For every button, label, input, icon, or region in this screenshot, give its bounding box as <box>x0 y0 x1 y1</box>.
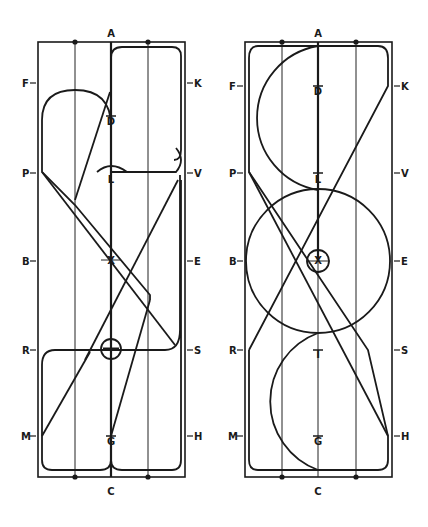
right-bottom-half-circle <box>270 333 318 470</box>
right-marker-dot <box>279 39 284 44</box>
letter-s: S <box>194 345 201 356</box>
letter-c: C <box>107 486 114 497</box>
letter-l: L <box>108 174 115 185</box>
right-marker-dot <box>279 474 284 479</box>
right-arena: A C F P B R M K V E S H D L X I G <box>228 28 410 497</box>
letter-h: H <box>401 431 409 442</box>
letter-d: D <box>314 86 322 97</box>
letter-e: E <box>401 256 408 267</box>
left-marker-dot <box>72 39 77 44</box>
letter-r: R <box>229 345 237 356</box>
letter-b: B <box>22 256 30 267</box>
left-track-path <box>85 180 178 360</box>
letter-p: P <box>229 168 236 179</box>
letter-b: B <box>229 256 237 267</box>
left-marker-dot <box>145 474 150 479</box>
letter-k: K <box>401 81 410 92</box>
letter-v: V <box>401 168 409 179</box>
left-arena: A C F P B R M K V E S H D L X G <box>21 28 203 497</box>
letter-g: G <box>314 436 322 447</box>
letter-k: K <box>194 78 203 89</box>
letter-v: V <box>194 168 202 179</box>
letter-a: A <box>107 28 115 39</box>
letter-c: C <box>314 486 321 497</box>
letter-i: I <box>316 349 320 360</box>
letter-f: F <box>22 78 29 89</box>
letter-g: G <box>107 436 115 447</box>
left-track-path <box>75 92 110 200</box>
left-marker-dot <box>145 39 150 44</box>
letter-m: M <box>21 431 31 442</box>
letter-e: E <box>194 256 201 267</box>
left-track-path <box>42 90 150 300</box>
letter-l: L <box>315 174 322 185</box>
letter-s: S <box>401 345 408 356</box>
left-track-path <box>42 352 90 436</box>
right-marker-dot <box>353 474 358 479</box>
right-top-half-circle <box>257 46 318 190</box>
letter-x: X <box>314 255 322 266</box>
letter-f: F <box>229 81 236 92</box>
letter-d: D <box>107 116 115 127</box>
right-marker-dot <box>353 39 358 44</box>
left-track-path <box>111 47 181 160</box>
letter-x: X <box>107 255 115 266</box>
letter-m: M <box>228 431 238 442</box>
dressage-diagrams: A C F P B R M K V E S H D L X G <box>0 0 428 527</box>
letter-p: P <box>22 168 29 179</box>
letter-r: R <box>22 345 30 356</box>
left-track-path <box>111 300 150 436</box>
left-marker-dot <box>72 474 77 479</box>
letter-h: H <box>194 431 202 442</box>
letter-a: A <box>314 28 322 39</box>
